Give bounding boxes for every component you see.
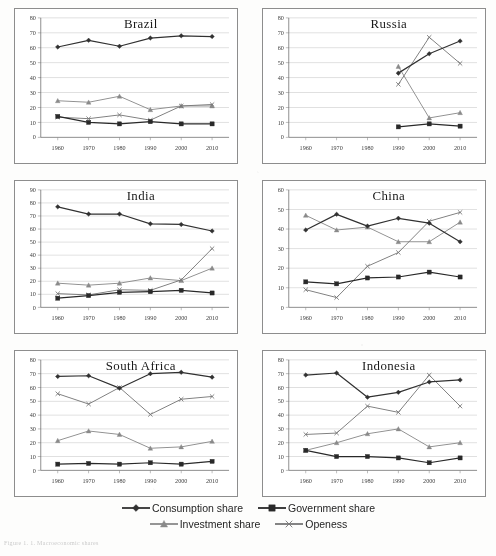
svg-text:50: 50 xyxy=(30,239,36,245)
svg-text:30: 30 xyxy=(30,426,36,432)
svg-text:10: 10 xyxy=(278,454,284,460)
svg-text:70: 70 xyxy=(30,371,36,377)
svg-text:40: 40 xyxy=(30,75,36,81)
svg-text:10: 10 xyxy=(30,291,36,297)
legend-label: Openess xyxy=(305,518,347,530)
svg-text:40: 40 xyxy=(278,75,284,81)
svg-text:70: 70 xyxy=(30,30,36,36)
chart-panel-russia: 0102030405060708019601970198019902000201… xyxy=(262,8,486,164)
legend-item-consumption-share: Consumption share xyxy=(121,502,243,514)
legend-item-openess: Openess xyxy=(274,518,347,530)
legend-row-1: Consumption shareGovernment share xyxy=(121,502,375,514)
svg-text:2010: 2010 xyxy=(206,315,218,321)
svg-text:1970: 1970 xyxy=(330,145,342,151)
svg-text:60: 60 xyxy=(278,385,284,391)
svg-text:20: 20 xyxy=(30,105,36,111)
svg-text:20: 20 xyxy=(30,440,36,446)
svg-text:1990: 1990 xyxy=(144,315,156,321)
svg-text:80: 80 xyxy=(278,15,284,21)
chart-cell-india: 0102030405060708090196019701980199020002… xyxy=(0,172,248,342)
chart-brazil: 0102030405060708019601970198019902000201… xyxy=(15,9,237,163)
svg-text:1960: 1960 xyxy=(52,145,64,151)
svg-text:70: 70 xyxy=(278,30,284,36)
svg-text:1960: 1960 xyxy=(300,145,312,151)
chart-india: 0102030405060708090196019701980199020002… xyxy=(15,181,237,333)
svg-text:80: 80 xyxy=(30,15,36,21)
chart-panel-china: 0102030405060196019701980199020002010Chi… xyxy=(262,180,486,334)
svg-text:50: 50 xyxy=(30,398,36,404)
legend-label: Consumption share xyxy=(152,502,243,514)
chart-panel-brazil: 0102030405060708019601970198019902000201… xyxy=(14,8,238,164)
svg-text:1990: 1990 xyxy=(144,145,156,151)
svg-text:80: 80 xyxy=(278,357,284,363)
chart-panel-india: 0102030405060708090196019701980199020002… xyxy=(14,180,238,334)
svg-text:20: 20 xyxy=(278,440,284,446)
legend-row-2: Investment shareOpeness xyxy=(149,518,348,530)
square-marker-icon xyxy=(257,502,287,514)
svg-text:2010: 2010 xyxy=(206,478,218,484)
diamond-marker-icon xyxy=(121,502,151,514)
charts-grid: 0102030405060708019601970198019902000201… xyxy=(0,0,496,505)
svg-text:2000: 2000 xyxy=(423,315,435,321)
svg-text:10: 10 xyxy=(30,454,36,460)
svg-text:1960: 1960 xyxy=(300,315,312,321)
svg-text:South Africa: South Africa xyxy=(106,359,176,373)
svg-text:50: 50 xyxy=(278,207,284,213)
triangle-marker-icon xyxy=(149,518,179,530)
svg-text:1970: 1970 xyxy=(82,145,94,151)
legend-label: Government share xyxy=(288,502,375,514)
svg-text:0: 0 xyxy=(33,468,36,474)
svg-text:30: 30 xyxy=(278,246,284,252)
svg-text:40: 40 xyxy=(30,412,36,418)
svg-text:0: 0 xyxy=(33,305,36,311)
svg-text:1970: 1970 xyxy=(82,315,94,321)
svg-text:Indonesia: Indonesia xyxy=(362,359,416,373)
svg-text:50: 50 xyxy=(278,398,284,404)
chart-panel-south-africa: 0102030405060708019601970198019902000201… xyxy=(14,350,238,497)
svg-text:1980: 1980 xyxy=(113,315,125,321)
svg-text:1990: 1990 xyxy=(392,478,404,484)
svg-text:50: 50 xyxy=(278,60,284,66)
svg-text:2010: 2010 xyxy=(454,145,466,151)
svg-text:1960: 1960 xyxy=(300,478,312,484)
svg-text:1970: 1970 xyxy=(82,478,94,484)
svg-text:10: 10 xyxy=(30,120,36,126)
svg-text:40: 40 xyxy=(30,252,36,258)
svg-text:1990: 1990 xyxy=(392,315,404,321)
svg-text:70: 70 xyxy=(30,213,36,219)
svg-text:Russia: Russia xyxy=(371,17,408,31)
svg-text:2000: 2000 xyxy=(423,478,435,484)
chart-panel-indonesia: 0102030405060708019601970198019902000201… xyxy=(262,350,486,497)
svg-text:20: 20 xyxy=(278,265,284,271)
svg-text:1980: 1980 xyxy=(361,478,373,484)
svg-text:40: 40 xyxy=(278,226,284,232)
svg-text:60: 60 xyxy=(30,385,36,391)
chart-cell-indonesia: 0102030405060708019601970198019902000201… xyxy=(248,342,496,505)
svg-text:1990: 1990 xyxy=(392,145,404,151)
svg-text:1990: 1990 xyxy=(144,478,156,484)
svg-text:1970: 1970 xyxy=(330,478,342,484)
cross-marker-icon xyxy=(274,518,304,530)
legend-item-investment-share: Investment share xyxy=(149,518,261,530)
legend-item-government-share: Government share xyxy=(257,502,375,514)
svg-text:2010: 2010 xyxy=(454,478,466,484)
svg-text:10: 10 xyxy=(278,285,284,291)
svg-text:30: 30 xyxy=(278,426,284,432)
legend-label: Investment share xyxy=(180,518,261,530)
svg-text:50: 50 xyxy=(30,60,36,66)
svg-text:0: 0 xyxy=(281,305,284,311)
svg-text:1980: 1980 xyxy=(113,478,125,484)
svg-text:1980: 1980 xyxy=(361,145,373,151)
chart-china: 0102030405060196019701980199020002010Chi… xyxy=(263,181,485,333)
svg-text:0: 0 xyxy=(281,468,284,474)
svg-text:1970: 1970 xyxy=(330,315,342,321)
svg-text:2000: 2000 xyxy=(175,315,187,321)
figure-legend: Consumption shareGovernment share Invest… xyxy=(0,502,496,542)
figure-caption: Figure 1. 1. Macroeconomic shares xyxy=(4,540,99,546)
svg-text:60: 60 xyxy=(278,45,284,51)
svg-text:80: 80 xyxy=(30,357,36,363)
chart-indonesia: 0102030405060708019601970198019902000201… xyxy=(263,351,485,496)
svg-text:2010: 2010 xyxy=(454,315,466,321)
svg-text:1960: 1960 xyxy=(52,315,64,321)
chart-russia: 0102030405060708019601970198019902000201… xyxy=(263,9,485,163)
